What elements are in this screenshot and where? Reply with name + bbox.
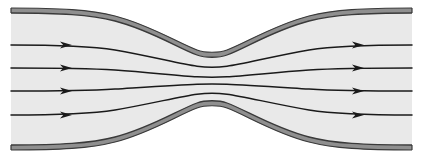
nozzle-diagram-svg [0, 0, 424, 158]
nozzle-figure [0, 0, 424, 158]
